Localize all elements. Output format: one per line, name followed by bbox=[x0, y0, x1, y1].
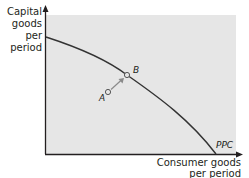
y-axis-arrowhead-icon bbox=[43, 5, 49, 12]
x-axis-label: Consumer goods per period bbox=[157, 157, 241, 178]
x-axis-label-line: per period bbox=[157, 168, 241, 178]
point-a bbox=[105, 89, 110, 94]
ppc-label: PPC bbox=[216, 140, 234, 150]
point-a-label: A bbox=[98, 93, 105, 103]
point-b bbox=[124, 72, 129, 77]
point-b-label: B bbox=[133, 65, 139, 75]
x-axis-label-line: Consumer goods bbox=[157, 157, 241, 168]
ppc-diagram: A B PPC bbox=[0, 0, 249, 178]
